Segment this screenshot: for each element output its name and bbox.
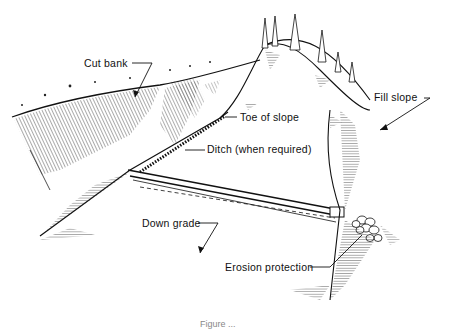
label-fill-slope: Fill slope bbox=[374, 92, 417, 103]
trees bbox=[262, 14, 355, 82]
label-ditch: Ditch (when required) bbox=[207, 144, 312, 155]
label-cut-bank: Cut bank bbox=[84, 58, 128, 69]
label-down-grade: Down grade bbox=[142, 218, 201, 229]
label-toe-of-slope: Toe of slope bbox=[240, 112, 299, 123]
figure-caption: Figure ... bbox=[200, 320, 236, 329]
cut-bank bbox=[12, 60, 260, 190]
label-erosion-protection: Erosion protection bbox=[225, 262, 313, 273]
culvert-road-surface bbox=[128, 170, 344, 222]
